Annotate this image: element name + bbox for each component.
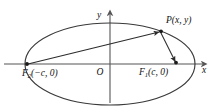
focus-f1-label: F1(c, 0)	[138, 67, 168, 78]
focal-radius-p-f1	[161, 33, 175, 62]
focus-f1-coords: (c, 0)	[148, 67, 168, 78]
focus-f2-dot	[25, 62, 29, 66]
focal-radius-f2-p	[28, 32, 159, 64]
focus-f1-dot	[174, 61, 178, 65]
focus-f2-label: F2(−c, 0)	[21, 68, 58, 79]
point-p-dot	[159, 29, 163, 33]
point-p-label: P(x, y)	[165, 15, 191, 26]
x-axis-label: x	[201, 65, 207, 75]
figure-canvas: y x O P(x, y) F2(−c, 0) F1(c, 0)	[0, 0, 213, 112]
y-axis-label: y	[96, 10, 102, 20]
focus-f2-coords: (−c, 0)	[31, 68, 57, 79]
ellipse-figure: y x O P(x, y) F2(−c, 0) F1(c, 0)	[0, 0, 213, 112]
origin-label: O	[97, 67, 104, 77]
